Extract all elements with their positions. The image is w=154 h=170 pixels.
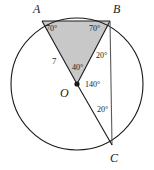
point-label-b: B <box>113 3 120 15</box>
angle-label-c-20: 20° <box>97 106 108 114</box>
angle-label-a-70: 70° <box>46 25 57 33</box>
point-label-o: O <box>60 87 69 99</box>
geometry-figure: A B C O 70° 70° 40° 140° 20° 20° 7 <box>0 0 154 170</box>
angle-label-o-140: 140° <box>85 81 100 89</box>
point-label-c: C <box>110 152 118 164</box>
angle-label-b-20: 20° <box>96 52 107 60</box>
point-label-a: A <box>33 3 40 15</box>
segment-oc <box>77 84 112 145</box>
angle-label-b-70: 70° <box>89 25 100 33</box>
segment-bc <box>110 21 112 145</box>
center-point-dot <box>74 81 79 86</box>
geometry-canvas <box>0 0 154 170</box>
segment-length-label-ao: 7 <box>52 57 57 66</box>
angle-label-o-40: 40° <box>72 64 83 72</box>
